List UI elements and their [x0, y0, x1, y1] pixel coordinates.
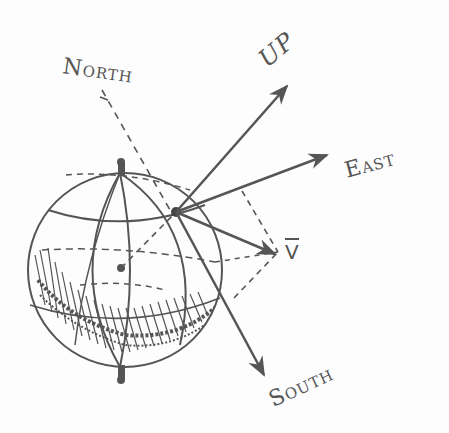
vector-bar [285, 238, 299, 240]
diagram-canvas: NORTH UP EAST SOUTH V [0, 0, 449, 433]
up-arrow [176, 86, 287, 212]
east-arrow [176, 155, 327, 212]
vector-v-arrow [176, 212, 275, 254]
south-arrow [176, 212, 264, 375]
vector-v-label: V [285, 240, 300, 264]
southern-shading [35, 248, 218, 352]
